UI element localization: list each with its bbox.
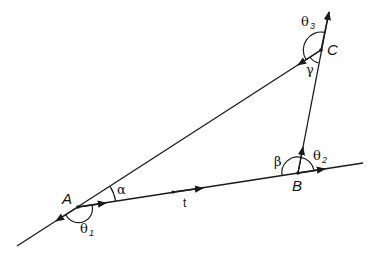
arc-alpha	[110, 186, 116, 201]
label-b: B	[292, 177, 302, 194]
arrow-b-up	[298, 147, 303, 173]
point-c	[319, 48, 323, 52]
label-beta: β	[274, 154, 282, 169]
svg-text:θ: θ	[313, 148, 321, 163]
label-a: A	[61, 190, 72, 207]
arrow-t-vector	[173, 188, 203, 192]
svg-text:θ: θ	[80, 221, 88, 236]
label-theta1: θ 1	[80, 221, 94, 238]
svg-text:1: 1	[89, 228, 94, 238]
arrow-b-right	[298, 169, 325, 173]
label-gamma: γ	[306, 62, 314, 77]
point-b	[296, 171, 300, 175]
svg-text:3: 3	[310, 21, 315, 31]
point-a	[76, 205, 80, 209]
label-alpha: α	[117, 182, 126, 197]
label-t-vector: t	[183, 196, 187, 210]
triangle-diagram: A B C α β γ θ 1 θ 2 θ 3 t	[0, 0, 375, 258]
svg-text:2: 2	[321, 155, 327, 165]
arrow-a-down-left	[56, 207, 78, 221]
label-c: C	[327, 41, 338, 58]
label-theta3: θ 3	[301, 14, 315, 31]
label-theta2: θ 2	[313, 148, 327, 165]
svg-text:θ: θ	[301, 14, 309, 29]
